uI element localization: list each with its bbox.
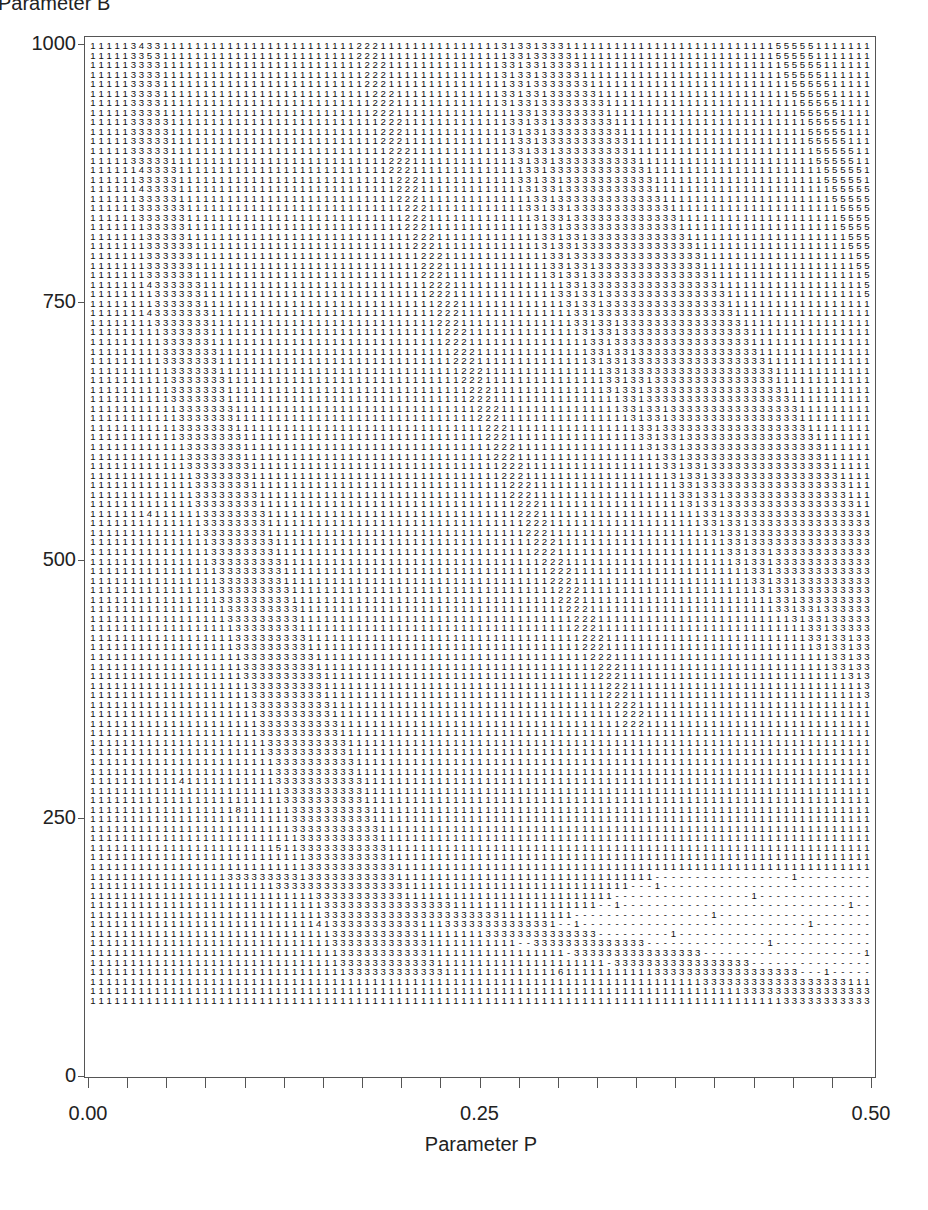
grid-cell: 1 <box>113 996 121 1006</box>
grid-cell: 1 <box>508 996 516 1006</box>
grid-cell: 1 <box>89 996 97 1006</box>
grid-cell: 1 <box>234 996 242 1006</box>
grid-cell: 1 <box>629 996 637 1006</box>
grid-cell: 1 <box>565 996 573 1006</box>
grid-cell: 1 <box>589 996 597 1006</box>
grid-cell: 1 <box>420 996 428 1006</box>
grid-cell: 3 <box>782 996 790 1006</box>
grid-cell: 1 <box>621 996 629 1006</box>
grid-cell: 1 <box>460 996 468 1006</box>
grid-cell: 1 <box>145 996 153 1006</box>
y-tick <box>78 44 84 45</box>
grid-cell: 1 <box>121 996 129 1006</box>
y-axis-label: Parameter B <box>0 0 110 15</box>
grid-cell: 1 <box>186 996 194 1006</box>
grid-cell: 3 <box>855 996 863 1006</box>
grid-cell: 1 <box>532 996 540 1006</box>
x-tick <box>88 1078 89 1088</box>
grid-cell: 1 <box>428 996 436 1006</box>
grid-cell: 1 <box>210 996 218 1006</box>
grid-cell: 1 <box>339 996 347 1006</box>
x-tick-label: 0.00 <box>48 1102 128 1125</box>
grid-cell: 1 <box>299 996 307 1006</box>
grid-cell: 1 <box>331 996 339 1006</box>
grid-cell: 1 <box>597 996 605 1006</box>
x-tick <box>245 1078 246 1088</box>
grid-cell: 3 <box>790 996 798 1006</box>
plot-area: 1111134331111111111111111111111112221111… <box>84 36 876 1078</box>
grid-cell: 3 <box>839 996 847 1006</box>
grid-cell: 1 <box>105 996 113 1006</box>
grid-cell: 1 <box>194 996 202 1006</box>
grid-cell: 1 <box>774 996 782 1006</box>
y-tick <box>78 560 84 561</box>
x-tick <box>519 1078 520 1088</box>
y-tick-label: 1000 <box>6 32 76 55</box>
grid-cell: 1 <box>363 996 371 1006</box>
grid-cell: 1 <box>266 996 274 1006</box>
x-tick <box>636 1078 637 1088</box>
grid-cell: 1 <box>452 996 460 1006</box>
grid-cell: 1 <box>476 996 484 1006</box>
grid-cell: 1 <box>129 996 137 1006</box>
x-tick <box>793 1078 794 1088</box>
grid-cell: 1 <box>444 996 452 1006</box>
x-tick <box>754 1078 755 1088</box>
x-tick <box>480 1078 481 1088</box>
grid-cell: 1 <box>355 996 363 1006</box>
grid-cell: 3 <box>863 996 871 1006</box>
x-tick <box>127 1078 128 1088</box>
grid-cell: 1 <box>718 996 726 1006</box>
grid-cell: 1 <box>283 996 291 1006</box>
x-tick <box>597 1078 598 1088</box>
grid-cell: 1 <box>702 996 710 1006</box>
grid-cell: 1 <box>137 996 145 1006</box>
grid-cell: 1 <box>605 996 613 1006</box>
grid-cell: 1 <box>484 996 492 1006</box>
grid-cell: 1 <box>549 996 557 1006</box>
grid-cell: 1 <box>516 996 524 1006</box>
x-tick <box>440 1078 441 1088</box>
grid-cell: 1 <box>178 996 186 1006</box>
y-tick <box>78 1076 84 1077</box>
grid-cell: 1 <box>758 996 766 1006</box>
grid-cell: 1 <box>678 996 686 1006</box>
x-tick <box>205 1078 206 1088</box>
grid-cell: 1 <box>637 996 645 1006</box>
grid-cell: 1 <box>541 996 549 1006</box>
grid-cell: 1 <box>323 996 331 1006</box>
x-tick <box>558 1078 559 1088</box>
grid-cell: 1 <box>226 996 234 1006</box>
grid-cell: 1 <box>436 996 444 1006</box>
grid-cell: 1 <box>347 996 355 1006</box>
grid-cell: 1 <box>653 996 661 1006</box>
x-tick <box>714 1078 715 1088</box>
grid-cell: 1 <box>307 996 315 1006</box>
grid-cell: 3 <box>831 996 839 1006</box>
y-tick-label: 500 <box>6 548 76 571</box>
x-tick <box>832 1078 833 1088</box>
grid-cell: 1 <box>726 996 734 1006</box>
grid-cell: 1 <box>170 996 178 1006</box>
x-axis-label: Parameter P <box>0 1133 928 1156</box>
x-tick <box>871 1078 872 1088</box>
character-grid: 1111134331111111111111111111111112221111… <box>89 41 871 1005</box>
grid-cell: 1 <box>202 996 210 1006</box>
grid-cell: 1 <box>371 996 379 1006</box>
grid-cell: 1 <box>315 996 323 1006</box>
grid-cell: 1 <box>154 996 162 1006</box>
grid-cell: 1 <box>670 996 678 1006</box>
grid-cell: 1 <box>524 996 532 1006</box>
grid-cell: 1 <box>686 996 694 1006</box>
y-tick-label: 250 <box>6 806 76 829</box>
x-tick <box>401 1078 402 1088</box>
y-tick-label: 0 <box>6 1064 76 1087</box>
grid-cell: 3 <box>823 996 831 1006</box>
grid-cell: 1 <box>291 996 299 1006</box>
grid-cell: 1 <box>242 996 250 1006</box>
grid-cell: 3 <box>847 996 855 1006</box>
grid-cell: 1 <box>395 996 403 1006</box>
x-tick <box>323 1078 324 1088</box>
x-tick <box>362 1078 363 1088</box>
grid-cell: 1 <box>742 996 750 1006</box>
